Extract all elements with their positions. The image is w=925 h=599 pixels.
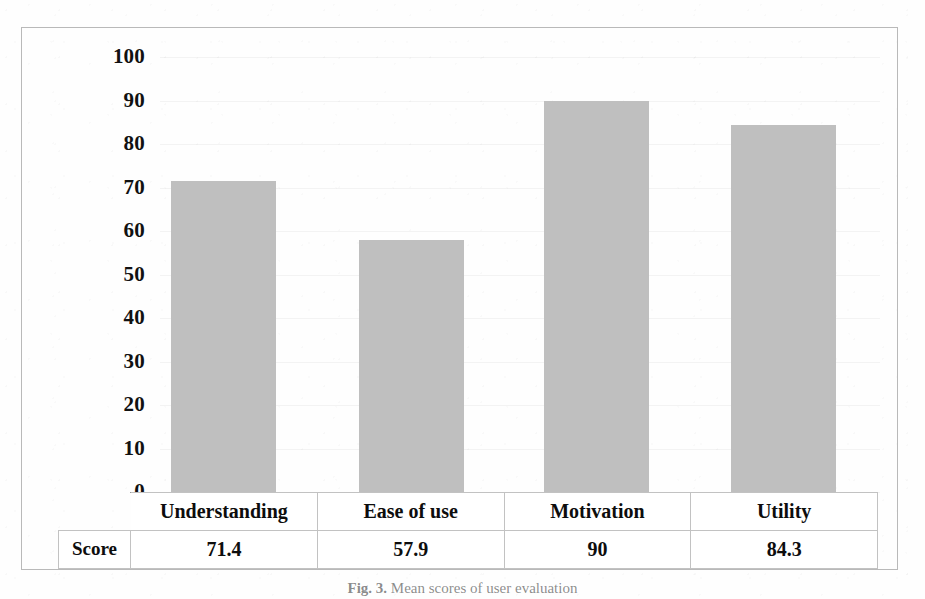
table-row-headers: Understanding Ease of use Motivation Uti… — [59, 493, 878, 531]
table-header-cell-3: Utility — [691, 493, 878, 531]
table-value-cell-1: 57.9 — [317, 531, 504, 569]
chart-frame-border — [21, 27, 898, 570]
table-header-cell-0: Understanding — [131, 493, 318, 531]
table-value-cell-0: 71.4 — [131, 531, 318, 569]
figure-caption: Fig. 3. Mean scores of user evaluation — [0, 580, 925, 597]
figure-caption-text: Mean scores of user evaluation — [391, 580, 578, 596]
table-header-cell-2: Motivation — [504, 493, 691, 531]
scanned-page: 1009080706050403020100 Understanding Eas… — [0, 0, 925, 599]
table-row-label-score: Score — [59, 531, 131, 569]
data-table: Understanding Ease of use Motivation Uti… — [58, 492, 878, 569]
table-header-cell-1: Ease of use — [317, 493, 504, 531]
figure-caption-label: Fig. 3. — [348, 580, 388, 596]
table-value-cell-2: 90 — [504, 531, 691, 569]
table-corner-cell — [59, 493, 131, 531]
table-value-cell-3: 84.3 — [691, 531, 878, 569]
table-row-score: Score 71.4 57.9 90 84.3 — [59, 531, 878, 569]
